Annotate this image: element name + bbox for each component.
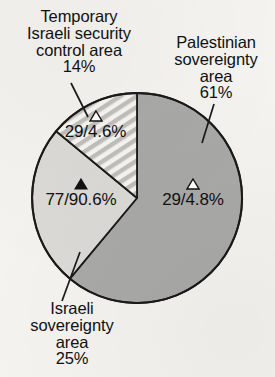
label-temporary-israeli-security-control-area: Temporary Israeli security control area … bbox=[6, 8, 152, 75]
label-temporary-line2: Israeli security bbox=[6, 25, 152, 42]
label-temporary-percent: 14% bbox=[6, 58, 152, 75]
label-israeli-line1: Israeli bbox=[2, 300, 142, 317]
label-palestinian-sovereignty-area: Palestinian sovereignty area 61% bbox=[160, 34, 272, 101]
pie-chart-figure: Temporary Israeli security control area … bbox=[0, 0, 275, 377]
label-palestinian-line1: Palestinian bbox=[160, 34, 272, 51]
slice-value-palestinian: 29/4.8% bbox=[145, 178, 241, 208]
label-palestinian-percent: 61% bbox=[160, 84, 272, 101]
slice-value-israeli: 77/90.6% bbox=[25, 178, 137, 208]
slice-value-temporary: 29/4.6% bbox=[38, 110, 153, 140]
label-israeli-percent: 25% bbox=[2, 350, 142, 367]
slice-value-israeli-text: 77/90.6% bbox=[25, 191, 137, 208]
label-temporary-line3: control area bbox=[6, 42, 152, 59]
label-temporary-line1: Temporary bbox=[6, 8, 152, 25]
label-israeli-line3: area bbox=[2, 334, 142, 351]
label-palestinian-line3: area bbox=[160, 68, 272, 85]
label-palestinian-line2: sovereignty bbox=[160, 51, 272, 68]
label-israeli-line2: sovereignty bbox=[2, 317, 142, 334]
label-israeli-sovereignty-area: Israeli sovereignty area 25% bbox=[2, 300, 142, 367]
slice-value-temporary-text: 29/4.6% bbox=[38, 123, 153, 140]
slice-value-palestinian-text: 29/4.8% bbox=[145, 191, 241, 208]
